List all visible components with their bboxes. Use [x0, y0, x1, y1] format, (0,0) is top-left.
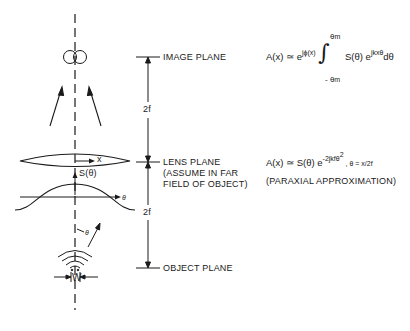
x-axis-label: x — [97, 154, 102, 165]
dimension-label-upper: 2f — [143, 104, 151, 115]
eq1-diff: dθ — [383, 51, 394, 62]
integral-sign-icon: ∫ — [318, 40, 329, 65]
eq1-exp2: jkxθ — [371, 49, 383, 56]
s-theta-axis-arrow-icon — [73, 172, 78, 178]
eq2-exp-sq: 2 — [340, 151, 344, 158]
eq1-lower-limit: - θ — [325, 75, 334, 84]
eq1-exp1: jϕ(x) — [302, 49, 316, 56]
eq2-exp: -2jkfθ — [323, 155, 340, 162]
lens-plane-note-2: FIELD OF OBJECT) — [163, 179, 248, 190]
plane-dimension-lines — [136, 57, 160, 268]
paraxial-note: (PARAXIAL APPROXIMATION) — [266, 176, 396, 187]
lens-plane-note-1: (ASSUME IN FAR — [163, 168, 238, 179]
eq2-lhs: A(x) ≃ S(θ) e — [266, 157, 323, 168]
s-theta-label: S(θ) — [79, 168, 97, 179]
object-plane-label: OBJECT PLANE — [163, 263, 233, 274]
theta-axis-arrow-icon — [115, 195, 121, 200]
x-axis-arrow-icon — [89, 159, 95, 164]
image-plane-label: IMAGE PLANE — [163, 52, 226, 63]
width-label: W — [72, 272, 82, 283]
equation-2: A(x) ≃ S(θ) e-2jkfθ2 , θ = x/2f — [266, 157, 373, 168]
eq1-lower-sub: m — [334, 76, 340, 83]
eq1-integrand: S(θ) e — [345, 51, 371, 62]
theta-axis-label: θ — [122, 192, 126, 203]
dimension-label-lower: 2f — [143, 207, 151, 218]
eq2-rest: , θ = x/2f — [344, 160, 373, 167]
eq1-upper-sub: m — [334, 33, 340, 40]
lens-plane-label: LENS PLANE — [163, 157, 221, 168]
eq1-lhs: A(x) ≃ e — [266, 51, 302, 62]
theta-angle-label: θ — [85, 227, 89, 238]
